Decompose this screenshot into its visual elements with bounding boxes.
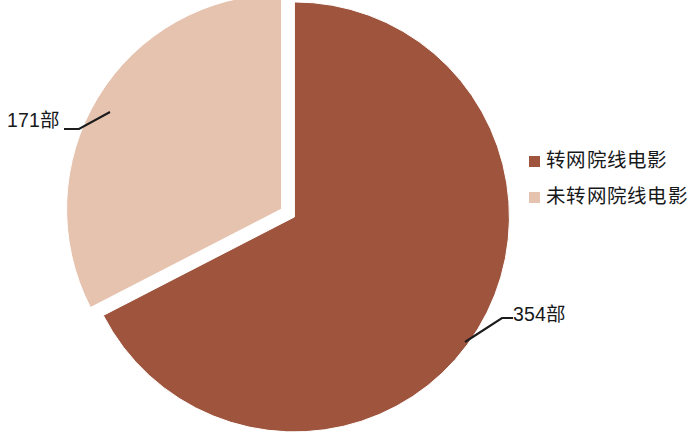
pie-chart-svg — [0, 0, 688, 433]
pie-chart-figure: 171部 354部 转网院线电影 未转网院线电影 — [0, 0, 688, 433]
legend-item-zhuanwang[interactable]: 转网院线电影 — [529, 150, 688, 172]
data-label-weizhuanwang: 171部 — [7, 111, 60, 131]
data-label-zhuanwang: 354部 — [513, 305, 566, 325]
legend-label-zhuanwang: 转网院线电影 — [546, 151, 668, 171]
legend-swatch-icon-zhuanwang — [529, 156, 540, 167]
legend-item-weizhuanwang[interactable]: 未转网院线电影 — [529, 186, 688, 208]
chart-legend: 转网院线电影 未转网院线电影 — [529, 150, 688, 208]
legend-label-weizhuanwang: 未转网院线电影 — [546, 187, 688, 207]
legend-swatch-icon-weizhuanwang — [529, 192, 540, 203]
